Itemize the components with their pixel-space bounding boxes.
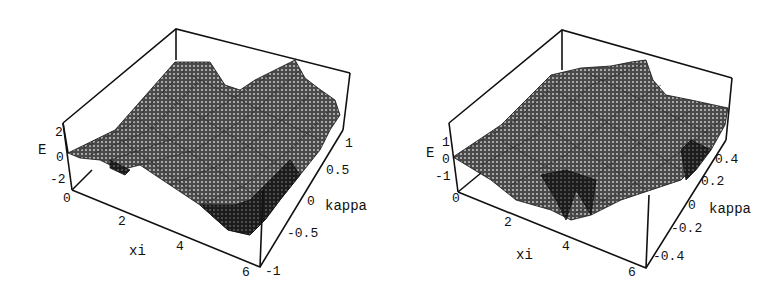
z-tick: 0 [442, 153, 450, 166]
y-tick: 0 [307, 195, 315, 208]
y-tick: 0.4 [715, 153, 738, 166]
y-axis-label: kappa [709, 203, 751, 216]
x-tick: 6 [242, 266, 250, 279]
z-tick: 2 [55, 126, 63, 139]
x-tick: 4 [176, 240, 184, 253]
y-tick: 0.2 [701, 175, 724, 188]
y-tick: -0.5 [287, 227, 318, 240]
x-tick: 2 [504, 216, 512, 229]
left-surface-graphic [0, 0, 392, 296]
y-tick: -0.2 [671, 222, 702, 235]
x-tick: 4 [562, 240, 570, 253]
z-tick: 0 [56, 151, 64, 164]
y-axis-label: kappa [325, 200, 367, 213]
x-tick: 0 [452, 192, 460, 205]
surface-mesh [68, 60, 340, 235]
x-axis-label: xi [129, 245, 146, 258]
left-surface-plot: E 2 0 -2 0 2 4 6 xi 1 0.5 0 -0.5 -1 kapp… [0, 0, 392, 296]
surface-mesh [453, 60, 728, 220]
x-tick: 6 [628, 266, 636, 279]
y-tick: 0.5 [326, 164, 349, 177]
z-tick: 1 [442, 136, 450, 149]
x-axis-label: xi [516, 249, 533, 262]
y-tick: -1 [265, 265, 281, 278]
right-surface-plot: E 1 0 -1 0 2 4 6 xi 0.4 0.2 0 -0.2 -0.4 … [391, 0, 783, 296]
z-tick: -1 [435, 170, 451, 183]
y-tick: 1 [345, 137, 353, 150]
x-tick: 2 [118, 215, 126, 228]
z-tick: -2 [50, 173, 66, 186]
z-axis-label: E [426, 147, 434, 160]
y-tick: -0.4 [653, 250, 684, 263]
z-axis-label: E [38, 144, 46, 157]
x-tick: 0 [63, 192, 71, 205]
y-tick: 0 [688, 199, 696, 212]
